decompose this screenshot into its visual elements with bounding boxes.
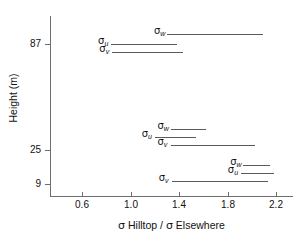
- y-tick-label: 9: [0, 179, 41, 189]
- x-tick-mark: [82, 192, 83, 197]
- x-title-slash: /: [157, 219, 166, 231]
- y-tick-label-text: 25: [1, 145, 41, 155]
- series-label: σw: [154, 26, 165, 38]
- sigma-subscript: u: [148, 133, 152, 140]
- series-label: σu: [228, 165, 238, 177]
- x-tick-label: 1.4: [161, 199, 197, 210]
- chart-figure: 87259 0.61.01.41.82.2 Height (m) σ Hillt…: [0, 0, 298, 246]
- x-axis-title: σ Hilltop / σ Elsewhere: [50, 219, 293, 232]
- sigma-subscript: w: [164, 125, 169, 132]
- y-tick-label: 87: [0, 39, 41, 49]
- sigma-subscript: v: [106, 48, 110, 55]
- y-axis-title: Height (m): [7, 53, 19, 143]
- data-line: [243, 165, 270, 166]
- sigma-symbol-2: σ: [166, 219, 173, 232]
- series-label: σv: [158, 137, 168, 149]
- x-tick-label: 1.8: [210, 199, 246, 210]
- sigma-subscript: v: [164, 141, 168, 148]
- x-tick-label: 0.6: [64, 199, 100, 210]
- sigma-subscript: w: [160, 30, 165, 37]
- x-tick-mark: [276, 192, 277, 197]
- x-title-part1: Hilltop: [125, 219, 157, 231]
- series-label: σv: [159, 173, 169, 185]
- y-tick-label: 25: [0, 145, 41, 155]
- data-line: [171, 145, 256, 146]
- series-label: σv: [99, 44, 109, 56]
- data-line: [111, 44, 176, 45]
- data-line: [167, 34, 263, 35]
- x-title-part2: Elsewhere: [173, 219, 225, 231]
- sigma-subscript: v: [165, 177, 169, 184]
- data-line: [241, 173, 274, 174]
- y-tick-mark: [45, 44, 51, 45]
- data-line: [171, 129, 206, 130]
- y-tick-mark: [45, 150, 51, 151]
- x-tick-mark: [228, 192, 229, 197]
- data-line: [172, 181, 268, 182]
- x-tick-mark: [179, 192, 180, 197]
- y-tick-mark: [45, 184, 51, 185]
- x-axis-line: [50, 196, 293, 197]
- x-tick-mark: [131, 192, 132, 197]
- data-line: [112, 52, 182, 53]
- y-tick-label-text: 9: [1, 179, 41, 189]
- series-label: σu: [142, 129, 152, 141]
- x-tick-label: 1.0: [113, 199, 149, 210]
- x-tick-label: 2.2: [258, 199, 294, 210]
- y-tick-label-text: 87: [1, 39, 41, 49]
- series-label: σw: [158, 121, 169, 133]
- sigma-subscript: u: [234, 169, 238, 176]
